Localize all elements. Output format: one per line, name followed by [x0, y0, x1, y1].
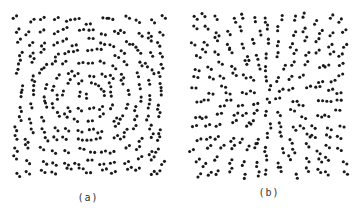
dot — [266, 97, 269, 100]
dot — [203, 41, 206, 44]
dot — [200, 12, 203, 15]
dot — [269, 84, 272, 87]
dot — [341, 31, 344, 34]
dot — [333, 79, 336, 82]
dot — [213, 36, 216, 39]
dot — [315, 51, 318, 54]
dot — [307, 51, 310, 54]
dot — [216, 39, 219, 42]
dot — [264, 75, 267, 78]
dot — [269, 126, 272, 129]
dot — [280, 135, 283, 138]
dot — [297, 103, 300, 106]
dot — [206, 44, 209, 47]
dot — [304, 54, 307, 57]
dot — [296, 100, 299, 103]
dot — [232, 137, 235, 140]
dot — [336, 135, 339, 138]
dot — [317, 99, 320, 102]
dot — [289, 46, 292, 49]
dot — [203, 98, 206, 101]
dot — [291, 42, 294, 45]
dot — [298, 76, 301, 79]
dot — [293, 19, 296, 22]
dot — [280, 170, 283, 173]
dot — [276, 29, 279, 32]
dot — [279, 114, 282, 117]
dot — [253, 146, 256, 149]
dot — [200, 100, 203, 103]
dot — [233, 17, 236, 20]
dot — [213, 159, 216, 162]
dot — [215, 173, 218, 176]
dot — [247, 59, 250, 62]
dot — [207, 28, 210, 31]
dot — [205, 138, 208, 141]
dot — [192, 148, 195, 151]
dot — [327, 115, 330, 118]
dot — [340, 99, 343, 102]
dot — [253, 16, 256, 19]
dot — [293, 60, 296, 63]
dot — [199, 56, 202, 59]
dot — [345, 162, 348, 165]
dot — [330, 128, 333, 131]
dot — [190, 41, 193, 44]
dot — [303, 12, 306, 15]
dot — [313, 23, 316, 26]
dot — [291, 87, 294, 90]
dot — [215, 31, 218, 34]
dot — [223, 144, 226, 147]
dot — [216, 18, 219, 21]
dot — [215, 125, 218, 128]
dot — [318, 85, 321, 88]
dot — [266, 23, 269, 26]
dot — [338, 109, 341, 112]
dot — [217, 61, 220, 64]
dot — [339, 91, 342, 94]
dot — [252, 103, 255, 106]
dot — [190, 86, 193, 89]
dot — [281, 147, 284, 150]
dot — [293, 151, 296, 154]
dot — [196, 175, 199, 178]
dot — [301, 30, 304, 33]
dot — [305, 166, 308, 169]
dot — [241, 164, 244, 167]
dot — [265, 52, 268, 55]
dot — [217, 169, 220, 172]
dot — [209, 136, 212, 139]
dot — [324, 144, 327, 147]
dot — [324, 170, 327, 173]
dot — [244, 59, 247, 62]
dot — [245, 125, 248, 128]
dot — [240, 13, 243, 16]
dot — [300, 115, 303, 118]
dot — [289, 108, 292, 111]
dot — [329, 136, 332, 139]
dot — [295, 48, 298, 51]
dot — [289, 158, 292, 161]
dot — [282, 68, 285, 71]
dot — [226, 30, 229, 33]
dot — [242, 46, 245, 49]
dot — [288, 138, 291, 141]
dot — [281, 88, 284, 91]
dot — [302, 104, 305, 107]
dot — [305, 35, 308, 38]
dot — [314, 40, 317, 43]
dot — [324, 65, 327, 68]
dot — [218, 123, 221, 126]
dot — [327, 89, 330, 92]
dot — [264, 114, 267, 117]
dot — [291, 142, 294, 145]
dot — [220, 112, 223, 115]
dot — [229, 33, 232, 36]
dot — [213, 50, 216, 53]
dot — [320, 115, 323, 118]
dot — [330, 43, 333, 46]
dot — [249, 76, 252, 79]
dot — [319, 171, 322, 174]
dot — [266, 28, 269, 31]
dot — [337, 74, 340, 77]
